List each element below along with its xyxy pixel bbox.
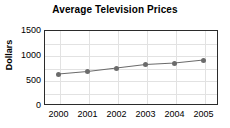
chart-container: Average Television Prices Dollars 050010… [0, 0, 230, 128]
y-tick-label: 1500 [1, 26, 41, 35]
x-axis-tick-labels: 200020012002200320042005 [44, 0, 218, 128]
y-tick-label: 0 [1, 101, 41, 110]
y-tick-label: 1000 [1, 51, 41, 60]
x-tick-label: 2005 [187, 110, 221, 119]
y-tick-label: 500 [1, 76, 41, 85]
y-axis-tick-labels: 050010001500 [0, 0, 41, 128]
